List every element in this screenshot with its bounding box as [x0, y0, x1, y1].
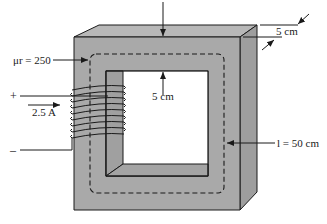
path-length-label: l = 50 cm	[277, 138, 319, 149]
magnetic-circuit-diagram: μr = 250 + 2.5 A – 5 cm 5 cm l = 50 cm	[0, 0, 327, 224]
minus-terminal-label: –	[10, 144, 16, 156]
core-top-face	[74, 25, 257, 37]
width-dim-label: 5 cm	[152, 91, 174, 102]
permeability-label: μr = 250	[13, 55, 51, 66]
window-inner-bottom-wall	[106, 164, 208, 176]
depth-dim-arrow-bottom	[262, 40, 274, 50]
core-right-face	[240, 25, 257, 210]
plus-terminal-label: +	[10, 90, 17, 102]
window-inner-left-wall	[106, 71, 123, 176]
depth-dim-arrow-top	[298, 14, 309, 24]
depth-dim-label: 5 cm	[276, 26, 298, 37]
current-label: 2.5 A	[32, 107, 56, 118]
